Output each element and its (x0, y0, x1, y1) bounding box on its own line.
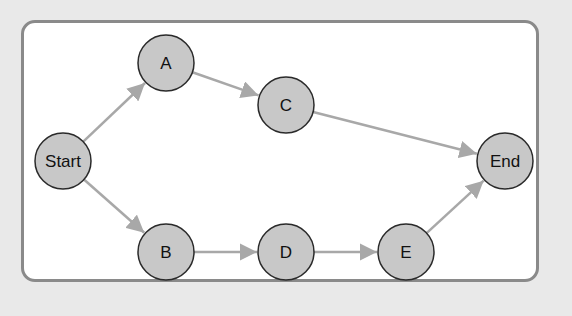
edge-e-to-end (427, 181, 484, 233)
node-b[interactable]: B (138, 224, 194, 280)
node-label: Start (45, 152, 81, 171)
node-label: A (160, 54, 172, 73)
edge-start-to-a (83, 83, 145, 142)
edge-a-to-c (192, 72, 258, 95)
node-label: B (160, 243, 171, 262)
node-a[interactable]: A (138, 35, 194, 91)
node-label: E (400, 243, 411, 262)
node-c[interactable]: C (258, 77, 314, 133)
edge-c-to-end (313, 112, 477, 154)
node-label: C (280, 96, 292, 115)
node-label: End (490, 152, 520, 171)
node-end[interactable]: End (477, 133, 533, 189)
node-d[interactable]: D (258, 224, 314, 280)
edge-start-to-b (84, 180, 144, 233)
node-e[interactable]: E (378, 224, 434, 280)
node-start[interactable]: Start (35, 133, 91, 189)
node-label: D (280, 243, 292, 262)
flow-graph: StartACEndBDE (0, 0, 572, 316)
